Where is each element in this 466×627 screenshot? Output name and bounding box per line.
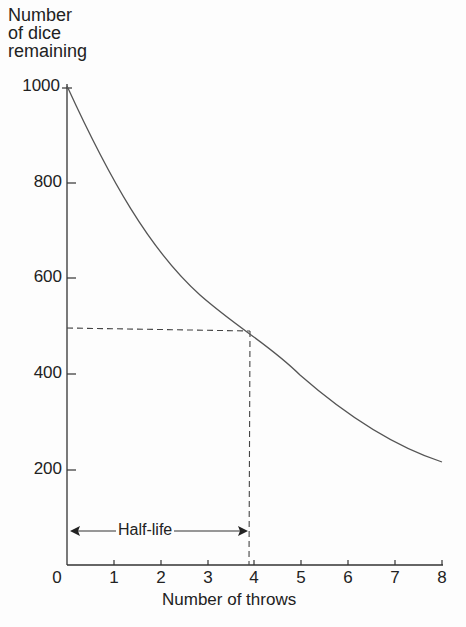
x-tick-2: 2 — [151, 568, 171, 588]
y-tick-1000: 1000 — [4, 76, 60, 96]
y-tick-600: 600 — [6, 267, 62, 287]
half-life-horizontal-guide — [67, 328, 250, 331]
x-tick-8: 8 — [432, 568, 452, 588]
y-tick-400: 400 — [6, 363, 62, 383]
y-ticks — [62, 88, 76, 470]
y-tick-800: 800 — [6, 172, 62, 192]
half-life-label: Half-life — [116, 521, 174, 539]
x-tick-6: 6 — [338, 568, 358, 588]
x-axis-label: Number of throws — [162, 590, 296, 610]
x-tick-3: 3 — [198, 568, 218, 588]
x-tick-5: 5 — [291, 568, 311, 588]
y-tick-200: 200 — [6, 459, 62, 479]
x-tick-7: 7 — [385, 568, 405, 588]
x-tick-0: 0 — [47, 568, 67, 588]
half-life-vertical-guide — [249, 331, 250, 565]
decay-curve — [67, 86, 442, 462]
chart-plot — [0, 0, 466, 627]
x-tick-1: 1 — [104, 568, 124, 588]
x-ticks — [114, 560, 442, 565]
x-tick-4: 4 — [244, 568, 264, 588]
